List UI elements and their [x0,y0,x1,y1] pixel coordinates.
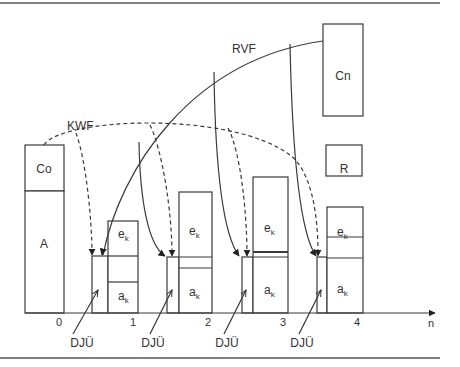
djue-label-4: DJÜ [290,336,313,350]
period-3: ek ak [242,177,288,313]
label-r: R [340,162,349,176]
period-2: ek ak [167,192,212,313]
axis-tick-3: 3 [280,316,286,328]
kwf-branch-3 [228,128,247,256]
djue-bar-4 [317,257,327,313]
label-a: A [40,237,48,251]
period-1: ek ak [92,221,138,313]
axis-tick-2: 2 [205,316,211,328]
label-co: Co [36,162,52,176]
djue-bar-2 [167,257,179,313]
djue-label-2: DJÜ [141,336,164,350]
kwf-branch-2 [150,125,172,256]
block-a [25,191,64,313]
rvf-label: RVF [232,42,256,56]
axis-variable-n: n [428,317,434,329]
djue-bar-3 [242,257,253,313]
axis-tick-4: 4 [354,316,360,328]
djue-label-1: DJÜ [70,336,93,350]
kwf-branch-1 [76,133,92,255]
block-initial: Co A [25,145,64,313]
djue-bar-1 [92,256,108,313]
period-4: ek ak [317,207,363,313]
rvf-branch-4 [290,44,316,256]
label-cn: Cn [335,69,350,83]
axis-tick-1: 1 [130,316,136,328]
axis-tick-0: 0 [56,316,62,328]
kwf-label: KWF [67,119,94,133]
djue-label-3: DJÜ [215,336,238,350]
rvf-branch-3 [214,72,239,256]
cash-flow-diagram: Co A Cn R ek ak ek ak ek ak ek [0,0,460,367]
